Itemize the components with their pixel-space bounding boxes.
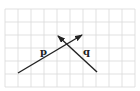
vector-p: [18, 35, 82, 73]
vectors: pq: [18, 35, 97, 73]
vector-label-q: q: [83, 46, 90, 57]
vector-q: [58, 36, 97, 72]
vector-label-p: p: [40, 46, 47, 57]
vector-grid-diagram: pq: [0, 0, 140, 91]
